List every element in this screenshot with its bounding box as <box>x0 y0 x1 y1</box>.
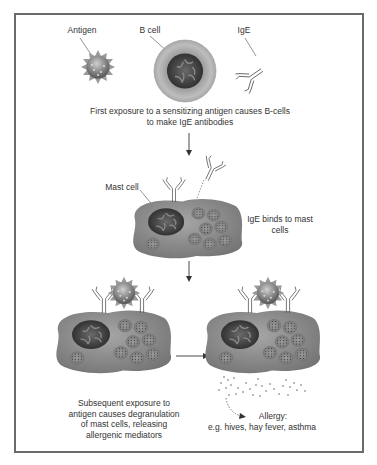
step2-caption: IgE binds to mast cells <box>240 214 320 235</box>
mast-cell-cross-linked-icon <box>56 277 171 373</box>
ige-label: IgE <box>232 25 256 35</box>
step3-caption-line3: of mast cells, releasing <box>62 419 186 430</box>
b-cell-label: B cell <box>130 25 170 35</box>
allergy-outcome-caption: Allergy: e.g. hives, hay fever, asthma <box>206 411 318 432</box>
allergy-outcome-line1: Allergy: <box>206 411 318 422</box>
ige-antibody-icon <box>233 38 268 95</box>
allergy-outcome-line2: e.g. hives, hay fever, asthma <box>206 422 318 433</box>
step2-caption-line2: cells <box>240 225 320 236</box>
mast-cell-icon <box>133 154 242 258</box>
diagram-artwork <box>0 0 377 465</box>
antigen-icon <box>80 38 115 84</box>
step3-caption-line2: antigen causes degranulation <box>62 409 186 420</box>
b-cell-icon <box>150 36 216 102</box>
step3-caption-line4: allergenic mediators <box>62 430 186 441</box>
step3-caption-line1: Subsequent exposure to <box>62 398 186 409</box>
step2-caption-line1: IgE binds to mast <box>240 214 320 225</box>
antigen-label: Antigen <box>60 25 104 35</box>
step1-caption-line2: to make IgE antibodies <box>70 117 310 128</box>
step1-caption-line1: First exposure to a sensitizing antigen … <box>70 106 310 117</box>
arrow-down-icon <box>186 261 192 282</box>
step1-caption: First exposure to a sensitizing antigen … <box>70 106 310 127</box>
mast-cell-label: Mast cell <box>100 182 144 192</box>
mast-cell-degranulating-icon <box>205 277 320 419</box>
arrow-right-icon <box>176 353 209 359</box>
arrow-down-icon <box>186 133 192 156</box>
step3-caption: Subsequent exposure to antigen causes de… <box>62 398 186 440</box>
